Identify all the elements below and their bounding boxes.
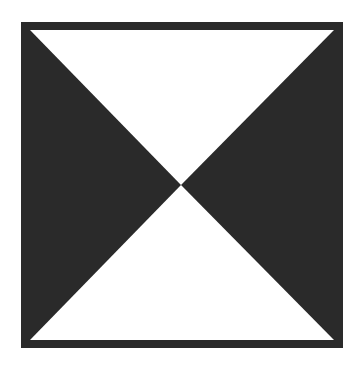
hourglass-diagram [0, 0, 358, 368]
